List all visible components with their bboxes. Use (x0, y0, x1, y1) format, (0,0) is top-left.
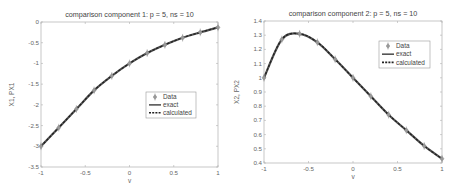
y-axis: 1.41.31.21.110.90.80.70.60.50.4X2, PX2 (233, 17, 442, 166)
x-tick-label: -0.5 (303, 165, 314, 172)
x-tick-label: 0.5 (393, 165, 402, 172)
y-tick-label: 0.4 (253, 159, 262, 166)
y-tick-label: -1.5 (28, 80, 39, 87)
chart-title: comparison component 1: p = 5, ns = 10 (65, 10, 194, 19)
x-tick-label: 1 (216, 169, 220, 176)
series-data-markers (39, 24, 220, 150)
x-tick-label: 0 (128, 169, 132, 176)
y-tick-label: 0 (36, 18, 40, 25)
y-tick-label: 1.2 (253, 45, 262, 52)
y-tick-label: -0.5 (28, 39, 39, 46)
y-tick-label: 0.9 (253, 88, 262, 95)
y-tick-label: 0.6 (253, 131, 262, 138)
x-tick-label: -0.5 (80, 169, 91, 176)
y-tick-label: 1.1 (253, 60, 262, 67)
x-tick-label: 1 (440, 165, 444, 172)
y-axis-label: X2, PX2 (233, 80, 240, 104)
y-tick-label: 1.4 (253, 17, 262, 24)
y-tick-label: -3.5 (28, 163, 39, 170)
chart-2-canvas: comparison component 2: p = 5, ns = 10-1… (231, 0, 462, 189)
series-calculated-line (41, 27, 218, 146)
y-tick-label: 1.3 (253, 31, 262, 38)
y-tick-label: 1 (259, 74, 263, 81)
legend-label-data: Data (396, 42, 410, 49)
legend-label-calculated: calculated (396, 59, 425, 66)
x-tick-label: -1 (38, 169, 44, 176)
x-tick-label: -1 (261, 165, 267, 172)
y-axis-label: X1, PX1 (8, 82, 15, 106)
chart-title: comparison component 2: p = 5, ns = 10 (289, 9, 418, 18)
y-tick-label: -3 (33, 142, 39, 149)
chart-component-2: comparison component 2: p = 5, ns = 10-1… (231, 0, 462, 189)
legend-label-data: Data (163, 93, 177, 100)
series-exact-line (41, 27, 218, 146)
legend-label-exact: exact (396, 50, 411, 57)
x-tick-label: 0 (351, 165, 355, 172)
chart-component-1: comparison component 1: p = 5, ns = 10-1… (0, 0, 231, 189)
y-tick-label: 0.8 (253, 102, 262, 109)
legend-label-calculated: calculated (163, 109, 192, 116)
y-tick-label: 0.5 (253, 145, 262, 152)
x-axis-label: v (351, 173, 355, 180)
x-tick-label: 0.5 (169, 169, 178, 176)
legend: Dataexactcalculated (379, 41, 430, 68)
legend: Dataexactcalculated (146, 92, 196, 118)
chart-1-canvas: comparison component 1: p = 5, ns = 10-1… (0, 0, 231, 189)
y-tick-label: 0.7 (253, 116, 262, 123)
y-tick-label: -2 (33, 101, 39, 108)
y-tick-label: -2.5 (28, 122, 39, 129)
x-axis-label: v (128, 177, 132, 184)
legend-label-exact: exact (163, 101, 178, 108)
y-tick-label: -1 (33, 59, 39, 66)
